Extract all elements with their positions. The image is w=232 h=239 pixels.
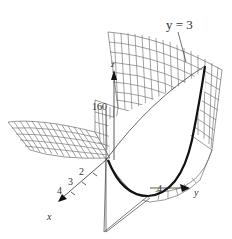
svg-text:4: 4 <box>57 185 62 196</box>
svg-text:2: 2 <box>79 166 84 177</box>
svg-text:y: y <box>193 187 199 198</box>
surface-plot: z 160 2 3 4 x 4 y y = 3 <box>0 0 232 239</box>
svg-text:x: x <box>46 211 52 222</box>
svg-text:4: 4 <box>157 183 162 194</box>
svg-text:y = 3: y = 3 <box>166 17 193 32</box>
svg-text:z: z <box>110 59 115 69</box>
svg-text:3: 3 <box>68 176 73 187</box>
svg-text:160: 160 <box>92 101 107 112</box>
